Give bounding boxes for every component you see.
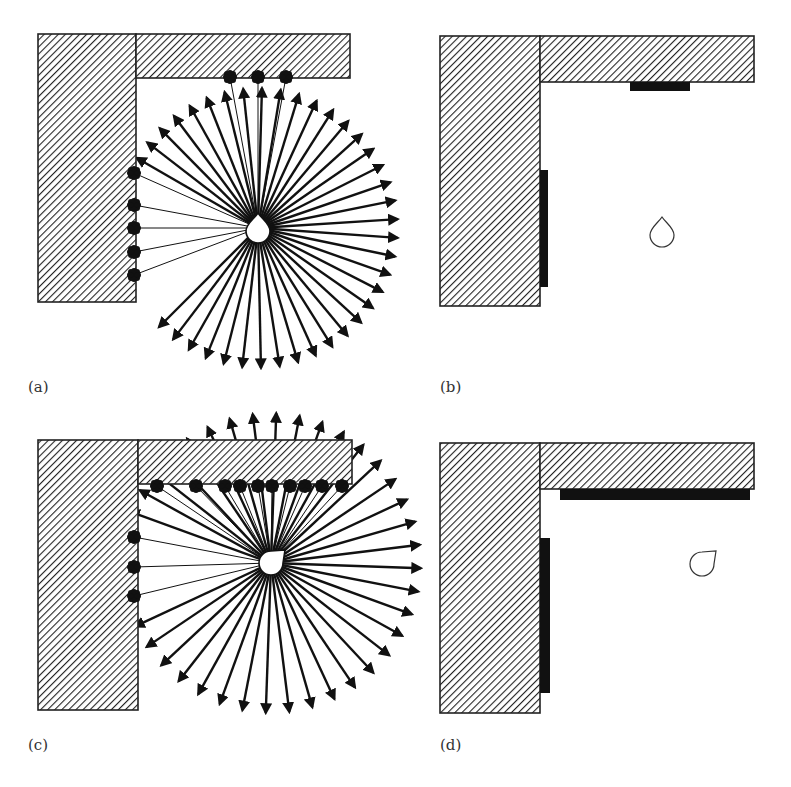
absorber-panel: [540, 538, 550, 693]
panel-label-a: (a): [28, 378, 49, 396]
absorption-hit-icon: [218, 479, 232, 493]
absorption-hit-icon: [265, 479, 279, 493]
reflected-ray-arrow: [160, 128, 258, 228]
absorption-hit-icon: [251, 70, 265, 84]
wall: [440, 36, 540, 306]
absorption-hit-icon: [279, 70, 293, 84]
panel-a: [38, 34, 398, 368]
absorption-hit-icon: [127, 560, 141, 574]
reflected-ray-arrow: [179, 563, 271, 681]
absorption-hit-icon: [127, 268, 141, 282]
reflected-ray-arrow: [159, 228, 258, 327]
wall: [38, 440, 138, 710]
absorption-hit-icon: [189, 479, 203, 493]
absorption-hit-icon: [127, 245, 141, 259]
sound-source-icon: [690, 551, 716, 576]
absorption-hit-icon: [233, 479, 247, 493]
absorber-panel: [630, 82, 690, 91]
absorption-hit-icon: [127, 198, 141, 212]
panel-b: [440, 36, 754, 306]
wall: [138, 440, 352, 484]
panel-d: [440, 443, 754, 713]
reflected-ray-arrow: [189, 228, 258, 350]
wall: [38, 34, 136, 302]
wall: [440, 443, 540, 713]
absorption-hit-icon: [298, 479, 312, 493]
absorption-hit-icon: [150, 479, 164, 493]
absorption-hit-icon: [315, 479, 329, 493]
reflected-ray-arrow: [224, 228, 258, 364]
panel-c: [38, 413, 421, 713]
wall: [540, 36, 754, 82]
reflected-ray-arrow: [198, 563, 271, 694]
reflected-ray-arrow: [258, 228, 298, 362]
reflected-ray-arrow: [271, 563, 389, 655]
figure-canvas: [0, 0, 791, 787]
absorber-panel: [540, 170, 548, 287]
absorber-panel: [560, 489, 750, 500]
panel-label-b: (b): [440, 378, 461, 396]
absorbed-ray: [134, 228, 258, 252]
absorbed-ray: [134, 563, 271, 567]
reflected-ray-arrow: [173, 228, 258, 339]
reflected-ray-arrow: [147, 563, 271, 647]
panel-label-d: (d): [440, 736, 461, 754]
sound-source-icon: [650, 217, 674, 247]
absorption-hit-icon: [283, 479, 297, 493]
wall: [540, 443, 754, 489]
wall: [136, 34, 350, 78]
panel-label-c: (c): [28, 736, 48, 754]
absorption-hit-icon: [127, 589, 141, 603]
reflected-ray-arrow: [140, 490, 271, 563]
absorption-hit-icon: [127, 221, 141, 235]
absorption-hit-icon: [223, 70, 237, 84]
absorption-hit-icon: [127, 530, 141, 544]
absorption-hit-icon: [251, 479, 265, 493]
reflected-ray-arrow: [271, 563, 402, 636]
absorption-hit-icon: [127, 166, 141, 180]
absorption-hit-icon: [335, 479, 349, 493]
